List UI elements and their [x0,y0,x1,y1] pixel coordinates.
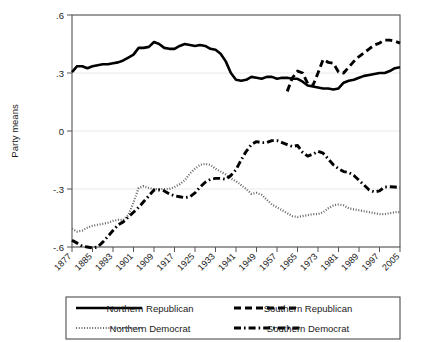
y-tick-label-2: 0 [59,126,64,137]
y-tick-label-1: .3 [56,68,64,79]
chart-figure: .6.30-.3-.6 1877188518931901190919171925… [0,0,421,342]
y-tick-label-4: -.6 [53,242,64,253]
y-tick-label-0: .6 [56,10,64,21]
figure-background [0,0,421,342]
legend-label-southern-democrat: Southern Democrat [267,323,350,334]
legend-label-southern-republican: Southern Republican [264,303,353,314]
legend-label-northern-republican: Northern Republican [106,303,193,314]
legend-label-northern-democrat: Northern Democrat [110,323,191,334]
y-axis-title: Party means [9,104,20,158]
y-tick-label-3: -.3 [53,184,64,195]
party-means-line-chart: .6.30-.3-.6 1877188518931901190919171925… [0,0,421,342]
